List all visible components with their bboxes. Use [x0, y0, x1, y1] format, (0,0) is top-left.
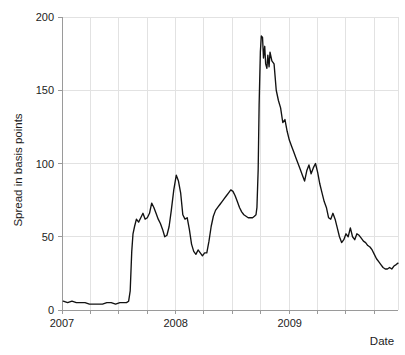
chart-canvas: 050100150200 200720082009 Spread in basi… — [0, 0, 405, 355]
svg-text:2009: 2009 — [277, 317, 301, 329]
x-axis-tick-labels: 200720082009 — [50, 317, 302, 329]
horizontal-gridlines — [62, 17, 398, 310]
y-axis-ticks — [58, 17, 62, 310]
y-axis-tick-labels: 050100150200 — [36, 11, 54, 316]
svg-text:2008: 2008 — [163, 317, 187, 329]
x-axis-ticks — [62, 310, 375, 314]
svg-text:0: 0 — [48, 304, 54, 316]
y-axis-title: Spread in basis points — [12, 113, 24, 226]
svg-text:50: 50 — [42, 231, 54, 243]
svg-text:100: 100 — [36, 158, 54, 170]
svg-text:200: 200 — [36, 11, 54, 23]
svg-text:150: 150 — [36, 84, 54, 96]
x-axis-title: Date — [370, 335, 394, 347]
svg-text:2007: 2007 — [50, 317, 74, 329]
spread-line-chart: 050100150200 200720082009 Spread in basi… — [0, 0, 405, 355]
spread-series-line — [63, 36, 398, 304]
